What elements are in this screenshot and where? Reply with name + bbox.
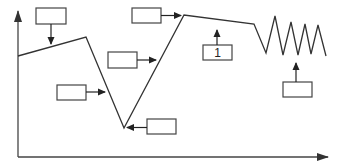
label-box — [57, 85, 86, 100]
label-box — [132, 8, 161, 23]
callout-top-middle — [132, 8, 181, 23]
label-box — [36, 8, 66, 24]
callout-top-left — [36, 8, 66, 44]
axes — [18, 11, 328, 157]
label-box — [283, 82, 312, 97]
callout-left — [57, 85, 105, 100]
callout-numbered: 1 — [203, 30, 232, 60]
label-box — [147, 119, 176, 134]
callout-bottom — [127, 119, 176, 134]
label-text: 1 — [214, 46, 221, 60]
diagram-canvas: 1 — [0, 0, 339, 168]
callout-right — [283, 63, 312, 97]
data-curve — [18, 15, 326, 128]
label-box — [108, 52, 137, 68]
callout-middle — [108, 52, 156, 68]
